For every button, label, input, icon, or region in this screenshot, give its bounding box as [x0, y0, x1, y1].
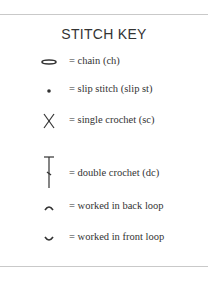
- top-divider: [0, 14, 208, 15]
- double-crochet-t-icon: [36, 155, 62, 189]
- bottom-divider: [0, 266, 208, 267]
- chain-oval-icon: [36, 52, 62, 72]
- single-crochet-x-icon: [36, 111, 62, 131]
- slip-stitch-dot-icon: [36, 80, 62, 100]
- stitch-key-item-front-loop: = worked in front loop: [0, 228, 208, 248]
- stitch-key-label: = worked in front loop: [69, 231, 164, 242]
- stitch-key-item-single-crochet: = single crochet (sc): [0, 111, 208, 131]
- stitch-key-title: STITCH KEY: [0, 26, 208, 42]
- back-loop-arc-icon: [36, 197, 62, 217]
- front-loop-arc-icon: [36, 228, 62, 248]
- stitch-key-item-back-loop: = worked in back loop: [0, 197, 208, 217]
- stitch-key-label: = worked in back loop: [69, 200, 164, 211]
- stitch-key-label: = chain (ch): [69, 55, 120, 66]
- stitch-key-item-slip-stitch: = slip stitch (slip st): [0, 80, 208, 100]
- stitch-key-label: = double crochet (dc): [69, 167, 159, 178]
- stitch-key-item-double-crochet: = double crochet (dc): [0, 155, 208, 189]
- stitch-key-label: = single crochet (sc): [69, 114, 155, 125]
- stitch-key-label: = slip stitch (slip st): [69, 83, 153, 94]
- stitch-key-item-chain: = chain (ch): [0, 52, 208, 72]
